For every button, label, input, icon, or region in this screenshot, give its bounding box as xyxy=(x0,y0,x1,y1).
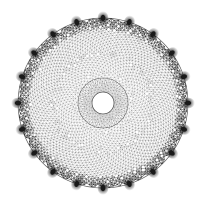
figure-container: Spiral phyllotaxis triangulated annular … xyxy=(0,0,206,203)
spiral-mesh-diagram xyxy=(0,0,206,203)
